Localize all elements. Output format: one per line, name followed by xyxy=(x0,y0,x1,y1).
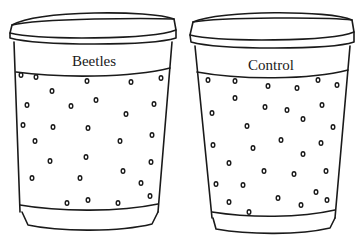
dot xyxy=(210,111,214,115)
control-dots xyxy=(206,78,339,214)
dot xyxy=(276,196,280,200)
dot xyxy=(251,146,255,150)
beetle-dots xyxy=(19,73,163,205)
dot xyxy=(25,103,29,107)
dot xyxy=(121,169,125,173)
dot xyxy=(65,201,69,205)
dot xyxy=(245,124,249,128)
dot xyxy=(214,182,218,186)
dot xyxy=(159,76,163,80)
dot xyxy=(129,80,133,84)
dot xyxy=(211,143,215,147)
dot xyxy=(324,169,328,173)
beetles-label: Beetles xyxy=(72,53,116,69)
dot xyxy=(233,79,237,83)
dot xyxy=(50,89,54,93)
dot xyxy=(150,133,154,137)
dot xyxy=(301,152,305,156)
dot xyxy=(335,83,339,87)
dot xyxy=(279,138,283,142)
cups-illustration: Beetles Control xyxy=(0,0,363,243)
dot xyxy=(34,75,38,79)
dot xyxy=(33,139,37,143)
dot xyxy=(299,203,303,207)
dot xyxy=(295,86,299,90)
dot xyxy=(314,190,318,194)
dot xyxy=(51,125,55,129)
dot xyxy=(331,125,335,129)
dot xyxy=(86,126,90,130)
dot xyxy=(262,169,266,173)
dot xyxy=(320,103,324,107)
dot xyxy=(148,194,152,198)
dot xyxy=(319,141,323,145)
dot xyxy=(86,198,90,202)
dot xyxy=(149,160,153,164)
dot xyxy=(21,123,25,127)
dot xyxy=(30,176,34,180)
dot xyxy=(316,78,320,82)
dot xyxy=(263,105,267,109)
control-label: Control xyxy=(248,57,294,73)
dot xyxy=(94,98,98,102)
dot xyxy=(227,161,231,165)
dot xyxy=(69,104,73,108)
dot xyxy=(233,96,237,100)
dot xyxy=(116,201,120,205)
dot xyxy=(227,200,231,204)
dot xyxy=(285,108,289,112)
dot xyxy=(84,155,88,159)
dot xyxy=(266,84,270,88)
dot xyxy=(124,112,128,116)
dot xyxy=(139,181,143,185)
dot xyxy=(85,79,89,83)
dot xyxy=(48,159,52,163)
dot xyxy=(152,102,156,106)
dot xyxy=(118,139,122,143)
cup-rim xyxy=(10,13,176,38)
dot xyxy=(247,210,251,214)
beetles-cup: Beetles xyxy=(10,13,176,230)
dot xyxy=(78,176,82,180)
dot xyxy=(206,78,210,82)
control-cup: Control xyxy=(190,13,354,234)
cup-rim xyxy=(190,13,354,40)
dot xyxy=(292,172,296,176)
dot xyxy=(19,73,23,77)
dot xyxy=(325,198,329,202)
dot xyxy=(301,117,305,121)
dot xyxy=(241,183,245,187)
